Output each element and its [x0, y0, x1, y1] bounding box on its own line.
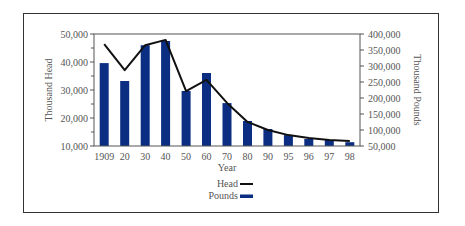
bar-pounds	[120, 81, 129, 146]
x-tick-label: 96	[304, 151, 314, 162]
x-tick-label: 80	[243, 151, 253, 162]
chart: 10,00020,00030,00040,00050,00050,000100,…	[0, 0, 465, 226]
x-tick-label: 1909	[94, 151, 114, 162]
bar-pounds	[182, 91, 191, 146]
right-tick-label: 150,000	[368, 109, 401, 120]
x-tick-label: 98	[345, 151, 355, 162]
right-tick-label: 200,000	[368, 93, 401, 104]
plot-area	[100, 40, 355, 146]
legend: Head Pounds	[209, 178, 253, 201]
x-tick-label: 95	[283, 151, 293, 162]
x-tick-label: 70	[222, 151, 232, 162]
x-tick-label: 60	[202, 151, 212, 162]
x-tick-label: 90	[263, 151, 273, 162]
x-axis-title: Year	[218, 162, 237, 173]
legend-label-head: Head	[217, 178, 238, 189]
bar-pounds	[284, 135, 293, 146]
x-tick-label: 50	[181, 151, 191, 162]
left-tick-label: 50,000	[61, 29, 89, 40]
left-tick-label: 40,000	[61, 57, 89, 68]
bar-pounds	[243, 121, 252, 146]
bar-pounds	[161, 41, 170, 146]
right-tick-label: 50,000	[368, 141, 396, 152]
left-tick-label: 30,000	[61, 85, 89, 96]
legend-swatch-pounds	[240, 195, 253, 199]
bar-pounds	[141, 45, 150, 146]
x-tick-label: 97	[324, 151, 334, 162]
bar-pounds	[100, 63, 109, 146]
x-tick-label: 40	[161, 151, 171, 162]
y-right-axis-title: Thousand Pounds	[412, 54, 423, 126]
bar-pounds	[345, 142, 354, 146]
y-left-axis-title: Thousand Head	[43, 58, 54, 121]
right-tick-label: 100,000	[368, 125, 401, 136]
x-tick-label: 20	[120, 151, 130, 162]
bar-pounds	[304, 139, 313, 146]
right-tick-label: 350,000	[368, 45, 401, 56]
legend-label-pounds: Pounds	[209, 190, 239, 201]
left-tick-label: 20,000	[61, 113, 89, 124]
left-tick-label: 10,000	[61, 141, 89, 152]
right-tick-label: 400,000	[368, 29, 401, 40]
right-tick-label: 250,000	[368, 77, 401, 88]
right-tick-label: 300,000	[368, 61, 401, 72]
x-tick-label: 30	[140, 151, 150, 162]
bar-pounds	[223, 103, 232, 146]
